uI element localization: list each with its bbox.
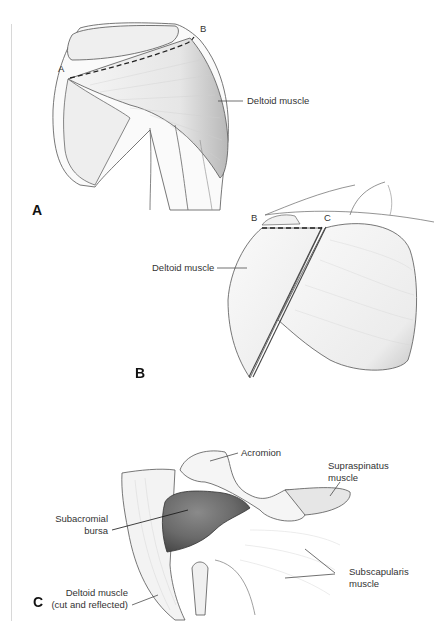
deltoid-muscle-label-a: Deltoid muscle (247, 95, 309, 107)
subacromial-bursa-label-line1: Subacromial (55, 513, 108, 525)
panel-b-illustration (0, 180, 434, 380)
subscapularis-label-line2: muscle (349, 578, 379, 590)
deltoid-cut-label-line1: Deltoid muscle (40, 587, 128, 599)
deltoid-muscle-label-b: Deltoid muscle (152, 262, 214, 274)
deltoid-cut-label-line2: (cut and reflected) (40, 599, 128, 611)
panel-b: B C Deltoid muscle B (0, 180, 434, 380)
panel-letter-b: B (135, 365, 145, 381)
point-label-b: B (200, 23, 206, 34)
subscapularis-label-line1: Subscapularis (349, 566, 409, 578)
point-label-a: A (58, 63, 64, 74)
acromion-label: Acromion (241, 447, 281, 459)
panel-letter-c: C (33, 594, 43, 610)
subacromial-bursa-label-line2: bursa (55, 525, 108, 537)
panel-c: Acromion Supraspinatus muscle Subacromia… (0, 400, 434, 621)
point-label-c: C (324, 212, 331, 223)
point-label-b2: B (251, 212, 257, 223)
supraspinatus-label-line2: muscle (328, 472, 358, 484)
supraspinatus-label-line1: Supraspinatus (328, 460, 389, 472)
